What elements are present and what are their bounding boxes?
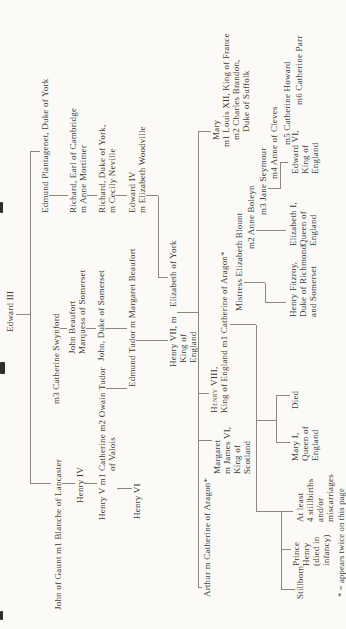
scan-artifact-1 — [0, 202, 3, 213]
connector-edmundtudor-henryvii — [136, 340, 168, 341]
node-elizabeth-of-york: Elizabeth of York — [168, 240, 178, 307]
connector-blount-drop — [244, 282, 265, 283]
node-mary-i-line2: Queen of — [300, 426, 310, 461]
connector-owain-edmundtudor — [106, 388, 127, 389]
connector-maryi-died-rail — [276, 396, 277, 443]
node-margaret-line3: King of — [232, 427, 242, 474]
node-henry-vi: Henry VI — [132, 483, 142, 519]
family-tree-canvas: Edward III John of Gaunt m1 Blanche of L… — [0, 0, 346, 629]
connector-gen2-rail — [30, 152, 31, 484]
node-mary-i: Mary I, Queen of England — [290, 426, 320, 461]
connector-princehenry-drop — [281, 549, 291, 550]
node-edward-vi-line1: Edward VI, — [290, 130, 300, 174]
node-edward-vi: Edward VI, King of England — [290, 130, 320, 174]
connector-infant-rail — [281, 512, 282, 590]
node-henry-fitzroy: Henry Fitzroy, Duke of Richmond and Some… — [288, 245, 318, 317]
node-henry-viii-name: Henry VIII, — [209, 251, 219, 413]
node-elizabeth-blount: Mistress Elizabeth Blount — [234, 213, 244, 312]
node-anne-boleyn: m2 Anne Boleyn — [246, 185, 256, 249]
node-mary-tudor: Mary m1 Louis XII, King of France m2 Cha… — [211, 33, 251, 147]
node-edward-vi-line2: King of — [300, 130, 310, 174]
node-margaret: Margaret m James VI, King of Scotland — [212, 427, 252, 474]
node-henry-viii: Henry VIII, King of England m1 Catherine… — [209, 251, 229, 413]
node-stillborn: Stillborn — [295, 566, 305, 599]
node-richard-cambridge-line2: m Anne Mortimer — [78, 108, 88, 213]
connector-boleyn-elizabethi — [256, 230, 286, 231]
connector-swynford-beaufort — [60, 328, 67, 329]
connector-stillbirths-drop — [256, 511, 293, 512]
node-margaret-line2: m James VI, — [222, 427, 232, 474]
node-john-somerset: John, Duke of Somerset — [96, 270, 106, 361]
node-henry-v: Henry V m1 Catherine m2 Owain Tudor of V… — [97, 367, 117, 520]
node-edward-iv: Edward IV m Elizabeth Woodville — [127, 126, 147, 213]
connector-seymour-elbow — [280, 163, 281, 189]
connector-somerset-margaretbeaufort — [105, 328, 127, 329]
node-anne-cleves: m4 Anne of Cleves — [269, 106, 279, 179]
connector-seymour-drop — [268, 188, 280, 189]
node-richard-cambridge: Richard, Earl of Cambridge m Anne Mortim… — [68, 108, 88, 213]
node-henry-viii-line2: King of England m1 Catherine of Aragon* — [219, 251, 229, 413]
connector-subrail-drop — [256, 420, 276, 421]
node-prince-henry-line3: (died in — [311, 534, 321, 566]
node-henry-vii-marriage-row: Henry VII, mElizabeth of York — [168, 240, 178, 367]
node-henry-fitzroy-line3: and Somerset — [308, 245, 318, 317]
node-henry-vii: Henry VII, mElizabeth of York King of En… — [168, 240, 198, 367]
node-richard-york-line1: Richard, Duke of York, — [97, 125, 107, 213]
node-margaret-line4: Scotland — [242, 427, 252, 474]
connector-edwardvi-drop — [280, 162, 288, 163]
node-stillbirths: At least 4 stillbirths and/or miscarriag… — [295, 474, 335, 522]
node-mary-tudor-line2: m1 Louis XII, King of France — [221, 33, 231, 147]
node-richard-cambridge-line1: Richard, Earl of Cambridge — [68, 108, 78, 213]
connector-aragon-children-drop — [230, 324, 256, 325]
node-elizabeth-i-line2: Queen of — [298, 202, 308, 246]
connector-york-3 — [116, 195, 127, 196]
node-mary-tudor-line1: Mary — [211, 33, 221, 140]
node-stillbirths-line1: At least — [295, 474, 305, 522]
node-elizabeth-i-line3: England — [308, 202, 318, 246]
connector-maryi-drop — [276, 442, 290, 443]
node-mary-i-line1: Mary I, — [290, 426, 300, 461]
node-stillbirths-line3: and/or — [315, 474, 325, 522]
connector-henryvii-children-rail — [198, 132, 199, 588]
node-elizabeth-i: Elizabeth I, Queen of England — [288, 202, 318, 246]
node-catherine-parr: m6 Catherine Parr — [294, 36, 304, 105]
node-edward-iii: Edward III — [5, 291, 15, 332]
connector-elizabethofyork-drop — [158, 277, 168, 278]
node-edmund-plantagenet: Edmund Plantagenet, Duke of York — [40, 79, 50, 213]
node-mary-tudor-line4: Duke of Suffolk — [241, 33, 251, 132]
scan-artifact-2 — [0, 362, 5, 374]
connector-valois-henryvi — [117, 488, 132, 489]
connector-henryviii-drop — [198, 393, 209, 394]
node-henry-vii-name: Henry VII, m — [168, 316, 178, 367]
node-prince-henry-line1: Prince — [291, 534, 301, 566]
node-john-beaufort-line2: Marquess of Somerset — [77, 270, 87, 355]
node-prince-henry-line2: Henry — [301, 534, 311, 566]
node-edward-vi-line3: England — [310, 130, 320, 174]
node-edmund-tudor: Edmund Tudor m Margaret Beaufort — [127, 248, 137, 387]
connector-henryvii-children-drop — [177, 312, 198, 313]
node-henry-fitzroy-line1: Henry Fitzroy, — [288, 245, 298, 317]
connector-edwardiv-elbow-rail — [158, 196, 159, 278]
node-stillbirths-line4: miscarriages — [325, 474, 335, 522]
node-died: Died — [290, 391, 300, 409]
node-henry-fitzroy-line2: Duke of Richmond — [298, 245, 308, 317]
connector-beaufort-somerset — [86, 328, 96, 329]
node-henry-v-line1: Henry V m1 Catherine m2 Owain Tudor — [97, 367, 107, 520]
connector-gaunt-henryiv — [62, 483, 75, 484]
connector-edwardiii-drop — [16, 314, 30, 315]
connector-stillborn-drop — [281, 589, 295, 590]
connector-margaret-drop — [198, 440, 212, 441]
node-richard-york-line2: m Cecily Neville — [107, 125, 117, 213]
connector-york-1 — [49, 195, 68, 196]
node-prince-henry: Prince Henry (died in infancy) — [291, 534, 331, 566]
connector-blount-elbow — [265, 283, 266, 303]
node-stillbirths-line2: 4 stillbirths — [305, 474, 315, 522]
node-john-beaufort: John Beaufort Marquess of Somerset — [67, 270, 87, 355]
connector-marytudor-drop — [198, 131, 211, 132]
footnote: * = appears twice on this page — [336, 488, 346, 597]
node-henry-vii-line3: England — [188, 240, 198, 363]
node-prince-henry-line4: infancy) — [321, 534, 331, 566]
node-catherine-swynford: m3 Catherine Swynford — [51, 313, 61, 404]
node-margaret-line1: Margaret — [212, 427, 222, 474]
node-john-of-gaunt: John of Gaunt m1 Blanche of Lancaster — [53, 459, 63, 610]
